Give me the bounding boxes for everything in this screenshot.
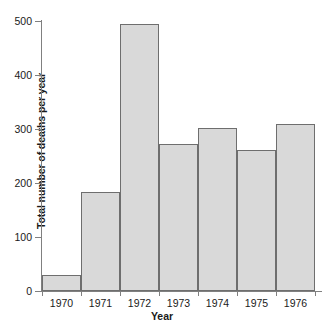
y-tick-mark bbox=[35, 129, 41, 130]
y-tick-mark bbox=[35, 21, 41, 22]
x-tick-mark bbox=[198, 291, 199, 296]
x-axis-line bbox=[41, 291, 322, 292]
y-tick-label: 500 bbox=[0, 16, 32, 27]
x-tick-mark bbox=[81, 291, 82, 296]
x-tick-mark bbox=[120, 291, 121, 296]
y-tick-label: 100 bbox=[0, 232, 32, 243]
x-tick-label: 1976 bbox=[273, 297, 319, 309]
y-tick-mark bbox=[35, 75, 41, 76]
y-tick-mark bbox=[35, 291, 41, 292]
x-tick-mark bbox=[276, 291, 277, 296]
x-tick-mark bbox=[237, 291, 238, 296]
bar bbox=[42, 275, 81, 291]
bar bbox=[81, 192, 120, 291]
x-tick-mark bbox=[42, 291, 43, 296]
bar-chart: Total number of deaths per year 01002003… bbox=[0, 0, 324, 324]
bar bbox=[120, 24, 159, 291]
y-tick-label: 400 bbox=[0, 70, 32, 81]
x-tick-mark bbox=[315, 291, 316, 296]
x-tick-mark bbox=[159, 291, 160, 296]
bar bbox=[159, 144, 198, 291]
y-tick-label: 200 bbox=[0, 178, 32, 189]
bar bbox=[198, 128, 237, 291]
y-tick-mark bbox=[35, 183, 41, 184]
y-tick-mark bbox=[35, 237, 41, 238]
bar bbox=[276, 124, 315, 291]
y-tick-label: 300 bbox=[0, 124, 32, 135]
plot-area bbox=[42, 21, 315, 291]
y-tick-label: 0 bbox=[0, 286, 32, 297]
x-axis-title: Year bbox=[0, 310, 324, 322]
bar bbox=[237, 150, 276, 291]
